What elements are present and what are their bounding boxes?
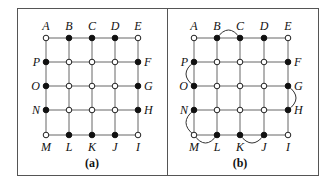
interior-node (112, 107, 118, 113)
node-label-M: M (188, 140, 200, 154)
interior-node (261, 59, 267, 65)
node-K (237, 132, 243, 138)
node-F (135, 59, 141, 65)
panel-caption: (b) (233, 156, 248, 170)
node-D (112, 35, 118, 41)
node-A (191, 35, 197, 41)
node-label-J: J (112, 140, 118, 154)
node-B (66, 35, 72, 41)
interior-node (66, 107, 72, 113)
node-O (191, 83, 197, 89)
node-G (285, 83, 291, 89)
interior-node (261, 107, 267, 113)
node-label-F: F (143, 55, 152, 69)
node-label-I: I (135, 140, 141, 154)
interior-node (66, 59, 72, 65)
node-M (43, 132, 49, 138)
node-E (285, 35, 291, 41)
node-B (214, 35, 220, 41)
interior-node (214, 107, 220, 113)
node-P (43, 59, 49, 65)
node-label-J: J (261, 140, 267, 154)
interior-node (89, 107, 95, 113)
node-A (43, 35, 49, 41)
interior-node (214, 59, 220, 65)
node-label-B: B (65, 19, 73, 33)
node-label-P: P (32, 55, 41, 69)
interior-node (237, 59, 243, 65)
node-O (43, 83, 49, 89)
node-G (135, 83, 141, 89)
panel-a: ABCDEFGHIJKLMNOP(a) (18, 9, 168, 176)
node-L (66, 132, 72, 138)
node-H (135, 107, 141, 113)
node-label-K: K (235, 140, 245, 154)
node-H (285, 107, 291, 113)
grid-diagram-figure: ABCDEFGHIJKLMNOP(a) ABCDEFGHIJKLMNOP(b) (0, 0, 334, 181)
node-L (214, 132, 220, 138)
interior-node (237, 107, 243, 113)
node-label-P: P (180, 55, 189, 69)
node-label-O: O (179, 79, 188, 93)
interior-node (89, 83, 95, 89)
node-label-L: L (65, 140, 73, 154)
node-E (135, 35, 141, 41)
node-label-H: H (143, 103, 154, 117)
node-label-A: A (41, 19, 50, 33)
interior-node (261, 83, 267, 89)
node-label-G: G (294, 79, 303, 93)
interior-node (66, 83, 72, 89)
node-N (191, 107, 197, 113)
node-C (89, 35, 95, 41)
interior-node (112, 83, 118, 89)
node-M (191, 132, 197, 138)
node-label-K: K (87, 140, 97, 154)
node-I (135, 132, 141, 138)
node-K (89, 132, 95, 138)
node-label-A: A (189, 19, 198, 33)
node-label-M: M (40, 140, 52, 154)
node-D (261, 35, 267, 41)
node-label-B: B (213, 19, 221, 33)
node-N (43, 107, 49, 113)
node-C (237, 35, 243, 41)
node-label-N: N (31, 103, 41, 117)
interior-node (237, 83, 243, 89)
node-label-L: L (213, 140, 221, 154)
node-label-I: I (285, 140, 291, 154)
node-label-N: N (179, 103, 189, 117)
node-label-D: D (110, 19, 120, 33)
node-label-O: O (31, 79, 40, 93)
node-label-E: E (283, 19, 292, 33)
node-label-H: H (293, 103, 304, 117)
node-J (112, 132, 118, 138)
node-I (285, 132, 291, 138)
node-label-F: F (293, 55, 302, 69)
panel-caption: (a) (85, 156, 99, 170)
node-P (191, 59, 197, 65)
interior-node (214, 83, 220, 89)
interior-node (89, 59, 95, 65)
node-label-C: C (88, 19, 97, 33)
node-F (285, 59, 291, 65)
panel-b: ABCDEFGHIJKLMNOP(b) (168, 9, 319, 176)
node-label-E: E (133, 19, 142, 33)
node-label-D: D (259, 19, 269, 33)
interior-node (112, 59, 118, 65)
node-label-G: G (144, 79, 153, 93)
node-label-C: C (236, 19, 245, 33)
node-J (261, 132, 267, 138)
